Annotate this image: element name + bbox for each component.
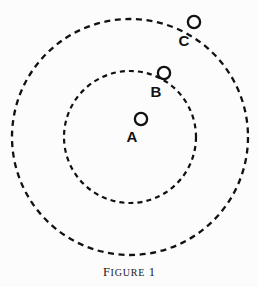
point-labels: A B C — [127, 32, 190, 145]
orbit-diagram: A B C — [0, 0, 258, 287]
figure-caption-lead: F — [103, 265, 111, 279]
point-label-b: B — [151, 83, 162, 100]
point-marker-a — [135, 113, 147, 125]
figure-caption: FIGURE 1 — [0, 265, 258, 280]
point-marker-c — [188, 16, 200, 28]
figure-caption-number: 1 — [149, 265, 155, 279]
point-label-a: A — [127, 128, 138, 145]
figure-container: A B C FIGURE 1 — [0, 0, 258, 287]
point-label-c: C — [179, 32, 190, 49]
figure-caption-rest: IGURE — [111, 267, 146, 278]
point-marker-b — [158, 67, 170, 79]
